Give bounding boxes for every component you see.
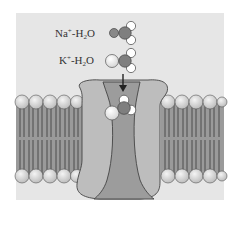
lipid-bilayer-right bbox=[161, 95, 227, 183]
na-water-label: Na+-H2O bbox=[55, 27, 95, 41]
k-ion bbox=[105, 106, 119, 120]
na-ion bbox=[110, 29, 119, 38]
water-oxygen bbox=[118, 102, 131, 115]
k-water-label: K+-H2O bbox=[59, 54, 94, 68]
k-ion bbox=[106, 55, 119, 68]
ion-channel-diagram: Na+-H2O K+-H2O bbox=[0, 0, 237, 235]
lipid-bilayer-left bbox=[15, 95, 84, 183]
